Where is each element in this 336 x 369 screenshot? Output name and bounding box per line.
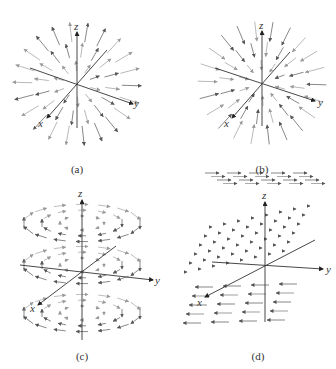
- vector-field-figure: [0, 0, 336, 369]
- axis-label-y-d: y: [326, 263, 331, 275]
- axis-label-x-a: x: [38, 117, 43, 129]
- axis-label-z-c: z: [78, 187, 82, 199]
- caption-d: (d): [252, 350, 265, 362]
- caption-b: (b): [256, 163, 269, 175]
- axis-label-z-b: z: [259, 19, 263, 31]
- axis-label-y-a: y: [134, 97, 139, 109]
- panel-b-radial-inward-field: [198, 22, 327, 145]
- axis-label-x-c: x: [30, 302, 35, 314]
- axis-label-y-b: y: [318, 96, 323, 108]
- axis-label-x-d: x: [197, 296, 202, 308]
- axis-label-x-b: x: [224, 117, 229, 129]
- panel-c-rotational-field: [20, 200, 153, 340]
- panel-d-layered-field: [183, 173, 325, 323]
- axis-label-y-c: y: [155, 274, 160, 286]
- panel-a-radial-outward-field: [13, 23, 142, 146]
- caption-a: (a): [71, 163, 83, 175]
- axis-label-z-a: z: [74, 20, 78, 32]
- axis-label-z-d: z: [262, 189, 266, 201]
- caption-c: (c): [76, 350, 88, 362]
